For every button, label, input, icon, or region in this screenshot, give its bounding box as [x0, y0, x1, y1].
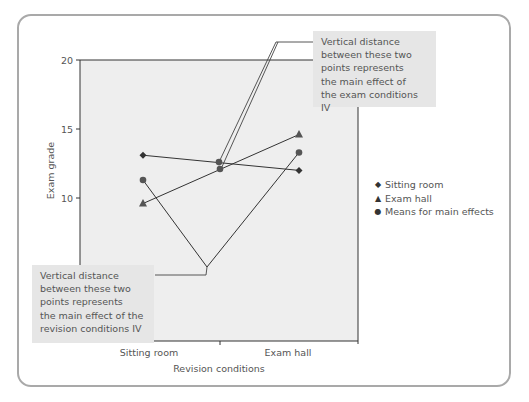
annotation-revision-conditions: Vertical distance between these two poin… [32, 265, 154, 343]
legend-label: Exam hall [385, 192, 432, 206]
y-tick-label: 15 [61, 124, 73, 135]
data-point-mean [216, 159, 223, 166]
annotation-line: between these two [40, 282, 146, 295]
annotation-line: the exam conditions IV [321, 88, 428, 114]
y-tick-label: 20 [61, 55, 73, 66]
legend-item-sitting-room: ◆ Sitting room [374, 178, 494, 192]
y-tick-label: 10 [61, 193, 73, 204]
legend-item-means: ● Means for main effects [374, 205, 494, 219]
data-point-mean [140, 177, 147, 184]
triangle-icon: ▲ [374, 192, 382, 206]
annotation-line: revision conditions IV [40, 322, 146, 335]
diamond-icon: ◆ [374, 178, 382, 192]
x-tick-label: Sitting room [120, 347, 178, 358]
legend-label: Means for main effects [385, 205, 494, 219]
data-point-mean [217, 166, 224, 173]
annotation-line: points represents [40, 295, 146, 308]
x-axis-label: Revision conditions [173, 363, 265, 374]
annotation-exam-conditions: Vertical distance between these two poin… [313, 31, 436, 107]
annotation-line: Vertical distance [321, 35, 428, 48]
circle-icon: ● [374, 205, 382, 219]
x-tick-label: Exam hall [265, 347, 312, 358]
data-point-mean [296, 149, 303, 156]
legend: ◆ Sitting room ▲ Exam hall ● Means for m… [374, 178, 494, 219]
annotation-line: between these two [321, 48, 428, 61]
legend-label: Sitting room [385, 178, 443, 192]
annotation-line: Vertical distance [40, 269, 146, 282]
annotation-line: points represents [321, 61, 428, 74]
legend-item-exam-hall: ▲ Exam hall [374, 192, 494, 206]
y-axis-label: Exam grade [45, 142, 56, 200]
annotation-line: the main effect of [321, 75, 428, 88]
annotation-line: the main effect of the [40, 309, 146, 322]
